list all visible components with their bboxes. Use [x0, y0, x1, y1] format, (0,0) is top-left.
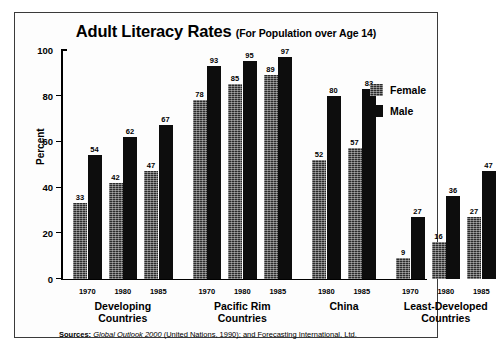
legend-item-male: Male [370, 105, 426, 117]
group-label-line: Countries [404, 313, 488, 325]
x-axis-year-label: 1985 [353, 287, 370, 296]
bar-female: 42 [109, 183, 123, 279]
y-axis-line [61, 50, 63, 280]
legend-swatch-male-icon [370, 105, 383, 117]
x-axis-year-label: 1980 [437, 287, 454, 296]
bar-female: 78 [193, 100, 207, 278]
y-axis-tick-label: 40 [42, 182, 53, 193]
y-axis-tick [56, 232, 62, 233]
y-axis-tick-label: 100 [37, 45, 53, 56]
bar-male: 62 [123, 137, 137, 279]
bar-value-label: 62 [126, 128, 134, 136]
x-axis-group-label: Pacific RimCountries [214, 301, 271, 324]
group-label-line: Pacific Rim [214, 301, 271, 313]
x-axis-year-label: 1980 [318, 287, 335, 296]
x-axis-year-label: 1985 [269, 287, 286, 296]
group-label-line: Countries [94, 313, 151, 325]
chart-title-subtitle: (For Population over Age 14) [236, 27, 376, 39]
bar-male: 54 [88, 155, 102, 278]
chart-title-main: Adult Literacy Rates [76, 22, 232, 40]
bar-value-label: 36 [449, 187, 457, 195]
x-axis-line [61, 279, 427, 281]
x-axis-year-label: 1980 [234, 287, 251, 296]
group-label-line: China [329, 301, 358, 313]
legend-label-male: Male [390, 105, 413, 117]
source-title: Global Outlook 2000 [93, 330, 161, 339]
bar-value-label: 52 [315, 151, 323, 159]
bar-male: 95 [243, 61, 257, 278]
x-axis-year-label: 1970 [198, 287, 215, 296]
bar-male: 97 [278, 57, 292, 279]
bar-value-label: 54 [90, 146, 98, 154]
y-axis-tick [56, 187, 62, 188]
bar-value-label: 80 [329, 87, 337, 95]
bar-male: 27 [411, 217, 425, 279]
bar-male: 36 [446, 196, 460, 278]
bar-value-label: 16 [434, 233, 442, 241]
y-axis-tick [56, 95, 62, 96]
bar-female: 16 [432, 242, 446, 279]
x-axis-year-label: 1985 [473, 287, 490, 296]
bar-female: 47 [144, 171, 158, 278]
bar-value-label: 9 [401, 249, 405, 257]
source-label: Sources: [59, 330, 91, 339]
y-axis-tick [61, 49, 67, 50]
x-axis-group-label: DevelopingCountries [94, 301, 151, 324]
legend-item-female: Female [370, 84, 426, 96]
bar-value-label: 67 [161, 116, 169, 124]
bar-female: 33 [73, 203, 87, 278]
x-axis-year-label: 1985 [150, 287, 167, 296]
bar-female: 85 [228, 84, 242, 278]
bar-value-label: 85 [231, 75, 239, 83]
bar-female: 27 [467, 217, 481, 279]
bar-value-label: 78 [195, 91, 203, 99]
bar-female: 89 [264, 75, 278, 278]
bar-female: 57 [348, 148, 362, 278]
bar-value-label: 57 [350, 139, 358, 147]
group-label-line: Least-Developed [404, 301, 488, 313]
y-axis-tick-label: 60 [42, 136, 53, 147]
source-note: Sources: Global Outlook 2000 (United Nat… [59, 330, 357, 339]
y-axis-tick [56, 141, 62, 142]
bar-female: 9 [396, 258, 410, 279]
y-axis-tick-label: 20 [42, 227, 53, 238]
x-axis-year-label: 1970 [79, 287, 96, 296]
chart-legend: Female Male [370, 84, 426, 126]
bar-value-label: 42 [111, 174, 119, 182]
bar-value-label: 27 [470, 208, 478, 216]
source-rest: (United Nations, 1990); and Forecasting … [164, 330, 357, 339]
bar-value-label: 47 [484, 162, 492, 170]
bar-value-label: 97 [281, 48, 289, 56]
bar-male: 93 [207, 66, 221, 279]
bar-value-label: 33 [76, 194, 84, 202]
chart-frame: Adult Literacy Rates (For Population ove… [14, 12, 438, 338]
x-axis-year-label: 1970 [402, 287, 419, 296]
legend-label-female: Female [390, 84, 426, 96]
bar-value-label: 93 [210, 57, 218, 65]
bar-female: 52 [312, 160, 326, 279]
legend-swatch-female-icon [370, 84, 383, 96]
y-axis-tick-label: 0 [48, 273, 53, 284]
x-axis-year-labels: 1970198019851970198019851980198519701980… [61, 287, 427, 299]
x-axis-group-label: China [329, 301, 358, 313]
bar-value-label: 95 [245, 52, 253, 60]
bar-value-label: 27 [413, 208, 421, 216]
bar-male: 47 [482, 171, 496, 278]
bar-value-label: 89 [266, 66, 274, 74]
bar-value-label: 47 [147, 162, 155, 170]
group-label-line: Developing [94, 301, 151, 313]
x-axis-year-label: 1980 [114, 287, 131, 296]
y-axis-tick-label: 80 [42, 90, 53, 101]
chart-title: Adult Literacy Rates (For Population ove… [15, 22, 437, 41]
y-axis-tick [56, 278, 62, 279]
group-label-line: Countries [214, 313, 271, 325]
x-axis-group-label: Least-DevelopedCountries [404, 301, 488, 324]
bar-male: 80 [327, 96, 341, 279]
bar-male: 67 [159, 125, 173, 278]
